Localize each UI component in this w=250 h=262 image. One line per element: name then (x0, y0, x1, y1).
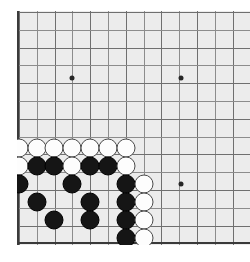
grid-line-horizontal (17, 48, 250, 49)
grid-line-vertical (215, 11, 216, 245)
black-stone[interactable] (28, 193, 47, 212)
go-board-surface[interactable] (17, 11, 250, 245)
black-stone[interactable] (45, 211, 64, 230)
grid-line-vertical (161, 11, 162, 245)
grid-line-horizontal (17, 30, 250, 31)
black-stone[interactable] (117, 229, 136, 246)
white-stone[interactable] (117, 139, 136, 158)
black-stone[interactable] (81, 157, 100, 176)
grid-line-horizontal (17, 208, 250, 209)
grid-line-vertical (19, 11, 20, 245)
grid-line-vertical (108, 11, 109, 245)
black-stone[interactable] (117, 175, 136, 194)
white-stone[interactable] (63, 139, 82, 158)
grid-line-horizontal (17, 101, 250, 102)
black-stone[interactable] (117, 193, 136, 212)
black-stone[interactable] (81, 193, 100, 212)
black-stone[interactable] (45, 157, 64, 176)
white-stone[interactable] (81, 139, 100, 158)
star-point (70, 76, 75, 81)
grid-line-horizontal (17, 137, 250, 138)
black-stone[interactable] (81, 211, 100, 230)
grid-line-horizontal (17, 190, 250, 191)
white-stone[interactable] (135, 193, 154, 212)
grid-line-horizontal (17, 65, 250, 66)
board-edge-left (17, 11, 19, 245)
white-stone[interactable] (45, 139, 64, 158)
black-stone[interactable] (99, 157, 118, 176)
white-stone[interactable] (63, 157, 82, 176)
white-stone[interactable] (117, 157, 136, 176)
white-stone[interactable] (135, 229, 154, 246)
white-stone[interactable] (135, 211, 154, 230)
go-board-diagram (0, 0, 250, 262)
grid-line-vertical (197, 11, 198, 245)
grid-line-vertical (233, 11, 234, 245)
grid-line-horizontal (17, 83, 250, 84)
star-point (179, 76, 184, 81)
white-stone[interactable] (99, 139, 118, 158)
grid-line-horizontal (17, 119, 250, 120)
grid-line-vertical (72, 11, 73, 245)
grid-line-horizontal (17, 12, 250, 13)
star-point (179, 182, 184, 187)
black-stone[interactable] (63, 175, 82, 194)
black-stone[interactable] (117, 211, 136, 230)
white-stone[interactable] (135, 175, 154, 194)
grid-line-vertical (179, 11, 180, 245)
